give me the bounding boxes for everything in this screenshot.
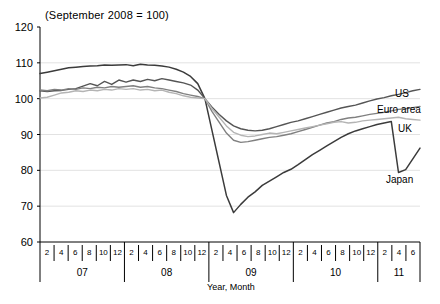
line-chart: (September 2008 = 100) 60708090100110120… xyxy=(0,0,440,304)
y-tick-label-80: 80 xyxy=(7,165,33,176)
y-tick-label-100: 100 xyxy=(7,94,33,105)
series-line-japan xyxy=(40,64,420,212)
series-line-euro-area xyxy=(40,86,420,143)
series-label-euro-area: Euro area xyxy=(377,105,421,115)
series-line-us xyxy=(40,79,420,131)
x-year-label-07: 07 xyxy=(68,268,96,278)
x-tick-label: 6 xyxy=(403,249,423,257)
y-tick-label-60: 60 xyxy=(7,237,33,248)
x-year-label-10: 10 xyxy=(322,268,350,278)
series-label-japan: Japan xyxy=(386,175,413,185)
series-label-uk: UK xyxy=(398,124,412,134)
series-label-us: US xyxy=(395,89,409,99)
x-year-label-09: 09 xyxy=(237,268,265,278)
y-tick-label-70: 70 xyxy=(7,201,33,212)
x-year-label-08: 08 xyxy=(153,268,181,278)
y-tick-label-110: 110 xyxy=(7,58,33,69)
y-tick-label-90: 90 xyxy=(7,130,33,141)
y-tick-label-120: 120 xyxy=(7,22,33,33)
series-line-uk xyxy=(40,89,420,137)
plot-canvas xyxy=(0,0,440,304)
x-axis-caption: Year, Month xyxy=(207,282,255,292)
x-year-label-11: 11 xyxy=(385,268,413,278)
